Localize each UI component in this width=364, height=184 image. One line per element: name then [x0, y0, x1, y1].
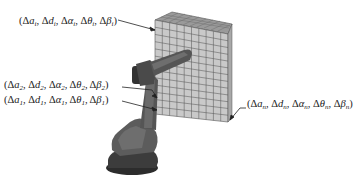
label-joint-i-params: (Δai, Δdi, Δαi, Δθi, Δβi)	[19, 16, 117, 28]
label-joint-n-params: (Δan, Δdn, Δαn, Δθn, Δβn)	[247, 99, 353, 111]
grid-side-face	[228, 24, 232, 122]
label-joint-1-params: (Δa1, Δd1, Δα1, Δθ1, Δβ1)	[4, 95, 109, 107]
label-joint-2-params: (Δa2, Δd2, Δα2, Δθ2, Δβ2)	[4, 80, 109, 92]
leader-top	[118, 20, 155, 30]
